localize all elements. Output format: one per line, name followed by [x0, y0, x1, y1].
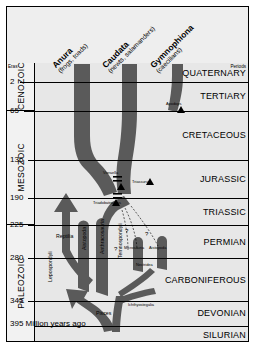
rule-280 — [35, 258, 248, 259]
period-carboniferous: CARBONIFEROUS — [165, 275, 246, 285]
tick-225 — [28, 225, 35, 226]
fossil-label-nectridea: Nectridea — [136, 262, 153, 267]
branch-label-pisces: Pisces — [96, 310, 111, 316]
rule-65 — [35, 111, 248, 112]
branch-label-reptilia: Reptilia — [56, 233, 73, 239]
tick-190 — [28, 198, 35, 199]
age-label-190: 190 — [10, 193, 23, 202]
age-label-225: 225 — [10, 220, 23, 229]
age-label-2: 2 — [10, 77, 14, 86]
age-label-280: 280 — [10, 253, 23, 262]
question-mark-3: ? — [114, 246, 117, 252]
fossil-label-vieraella: Vieraella — [103, 170, 118, 175]
branch-aistopoda — [157, 236, 167, 270]
period-silurian: SILURIAN — [203, 330, 246, 340]
period-devonian: DEVONIAN — [197, 308, 246, 318]
bar-fossil-3 — [113, 193, 122, 195]
period-cretaceous: CRETACEOUS — [182, 130, 246, 140]
fossil-label-triadobatrachus: Triadobatrachus — [93, 200, 121, 205]
fossil-label-microsauria: Microsauria — [124, 245, 144, 250]
fossil-label-aistopoda: Aistopoda — [149, 245, 166, 250]
tick-345 — [28, 301, 35, 302]
age-label-136: 136 — [10, 155, 23, 164]
period-jurassic: JURASSIC — [200, 174, 246, 184]
lineage-caudata — [117, 64, 138, 194]
lineage-anura — [74, 64, 117, 196]
period-quaternary: QUATERNARY — [182, 68, 246, 78]
rule-2 — [35, 82, 248, 83]
fossil-label-triassurus: Triassurus — [132, 179, 150, 184]
branch-label-aistopoda-stalk: Aistopoda — [81, 214, 87, 250]
period-triassic: TRIASSIC — [203, 207, 246, 217]
fossil-label-apodops: Apodops — [166, 101, 181, 106]
rule-136 — [35, 160, 248, 161]
age-label-65: 65 — [10, 106, 19, 115]
tick-136 — [28, 160, 35, 161]
tick-2 — [20, 82, 35, 83]
branch-label-anthracosauria: Anthracosauria — [99, 210, 105, 254]
question-mark-1: ? — [125, 228, 128, 234]
question-mark-2: ? — [145, 231, 148, 237]
phylogeny-figure: CENOZOIC MESOZOIC PALEOZOIC Eras Periods — [0, 0, 256, 349]
branch-label-temnospondyli: Temnospondyli — [117, 216, 123, 258]
bar-fossil-2 — [113, 180, 122, 182]
rule-225 — [35, 225, 248, 226]
tick-65 — [24, 111, 35, 112]
fossil-label-ichthyostegalia: Ichthyostegalia — [128, 302, 154, 307]
rule-190 — [35, 198, 248, 199]
period-tertiary: TERTIARY — [200, 91, 246, 101]
bar-fossil-1 — [113, 176, 122, 178]
period-permian: PERMIAN — [204, 237, 246, 247]
tick-280 — [28, 258, 35, 259]
age-label-345: 345 — [10, 296, 23, 305]
footnote-age: 395 Million years ago — [10, 319, 86, 328]
branch-label-lepospondyli: Lepospondyli — [47, 246, 53, 282]
